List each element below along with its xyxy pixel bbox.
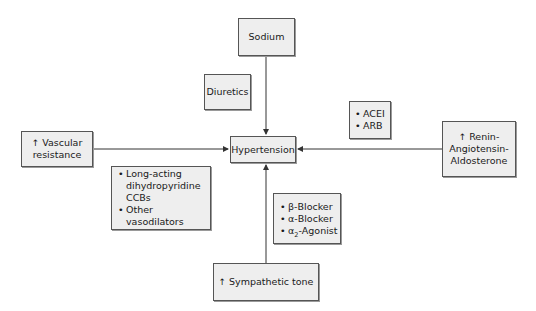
up-arrow-icon: ↑ [219, 277, 227, 287]
list-item: ARB [355, 120, 385, 132]
diuretics-label: Diuretics [206, 86, 248, 98]
list-item: α2-Agonist [280, 225, 338, 237]
list-item: Long-actingdihydropyridineCCBs [118, 168, 210, 204]
vasodilator-box: Long-actingdihydropyridineCCBs Other vas… [111, 166, 211, 230]
vasodilator-list: Long-actingdihydropyridineCCBs Other vas… [118, 168, 210, 228]
hypertension-label: Hypertension [231, 144, 295, 156]
diuretics-box: Diuretics [204, 74, 251, 110]
up-arrow-icon: ↑ [459, 132, 467, 142]
hypertension-box: Hypertension [230, 136, 296, 163]
raas-line2: Angiotensin- [449, 143, 509, 155]
sodium-label: Sodium [249, 31, 285, 43]
raas-line1: Renin- [469, 131, 499, 142]
vascular-line2: resistance [32, 149, 83, 161]
raas-box: ↑Renin- Angiotensin- Aldosterone [442, 121, 516, 177]
raas-line3: Aldosterone [449, 155, 509, 167]
sympathetic-drugs-list: β-Blocker α-Blocker α2-Agonist [280, 201, 338, 237]
sympathetic-drugs-box: β-Blocker α-Blocker α2-Agonist [273, 193, 341, 244]
vascular-box: ↑Vascular resistance [21, 131, 93, 167]
sympathetic-label: Sympathetic tone [229, 276, 313, 287]
sympathetic-box: ↑Sympathetic tone [213, 263, 319, 301]
up-arrow-icon: ↑ [32, 138, 40, 148]
acei-arb-box: ACEI ARB [349, 101, 391, 139]
list-item: Other vasodilators [118, 204, 210, 228]
list-item: ACEI [355, 108, 385, 120]
list-item: β-Blocker [280, 201, 338, 213]
vascular-line1: Vascular [42, 137, 82, 148]
list-item: α-Blocker [280, 213, 338, 225]
sodium-box: Sodium [238, 18, 295, 56]
acei-arb-list: ACEI ARB [355, 108, 385, 132]
